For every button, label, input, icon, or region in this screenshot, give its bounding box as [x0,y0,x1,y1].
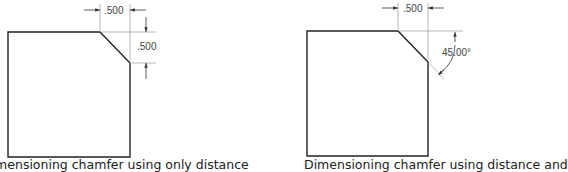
figure-caption-left: Dimensioning chamfer using only distance [0,157,249,172]
dimension-arrow [438,70,444,75]
dimension-angle-value: 45.00° [442,47,471,58]
dimension-horizontal-value: .500 [104,5,124,16]
figure-distance-distance: .500 .500 [8,4,157,157]
dimension-vertical-value: .500 [137,41,157,52]
chamfered-square-outline [8,32,130,157]
dimension-horizontal-value: .500 [403,3,423,14]
chamfered-square-outline [307,31,428,156]
figure-distance-angle: .500 45.00° [307,3,471,156]
figure-caption-right: Dimensioning chamfer using distance and [304,157,568,172]
